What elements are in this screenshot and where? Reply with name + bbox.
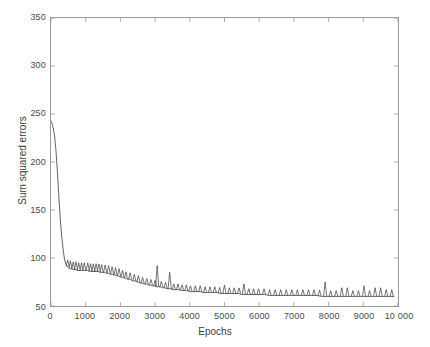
error-curve-svg bbox=[51, 18, 398, 306]
x-axis-title: Epochs bbox=[0, 326, 430, 337]
y-tick-label-150: 150 bbox=[30, 206, 46, 215]
y-tick-label-50: 50 bbox=[36, 303, 46, 312]
axis-tick-marks bbox=[51, 18, 398, 306]
y-tick-label-250: 250 bbox=[30, 109, 46, 118]
y-tick-label-200: 200 bbox=[30, 158, 46, 167]
y-axis-title: Sum squared errors bbox=[17, 91, 28, 231]
y-tick-label-300: 300 bbox=[30, 61, 46, 70]
x-axis-tick-labels: 010002000300040005000600070008000900010 … bbox=[0, 312, 430, 326]
error-spikes bbox=[66, 260, 393, 296]
plot-area bbox=[50, 17, 399, 307]
x-tick-label-10000: 10 000 bbox=[369, 312, 429, 321]
chart-figure: 50100150200250300350 0100020003000400050… bbox=[0, 0, 430, 347]
y-tick-label-350: 350 bbox=[30, 13, 46, 22]
y-tick-label-100: 100 bbox=[30, 254, 46, 263]
